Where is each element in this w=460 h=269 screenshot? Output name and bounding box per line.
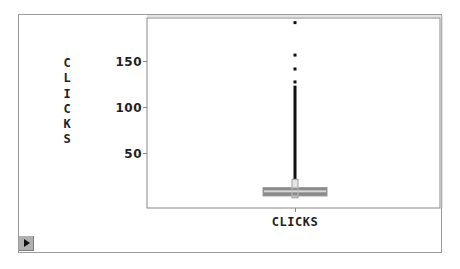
box-plot: 50100150CLICKS	[0, 0, 460, 269]
outlier-point	[294, 54, 297, 57]
play-icon[interactable]	[19, 236, 34, 251]
median-line	[264, 190, 326, 192]
outlier-point	[294, 67, 297, 70]
outlier-point	[294, 21, 297, 24]
y-tick-label: 150	[115, 55, 142, 69]
outlier-point	[294, 80, 297, 83]
y-tick-label: 50	[124, 147, 142, 161]
y-tick-label: 100	[115, 101, 142, 115]
x-axis-title: CLICKS	[272, 215, 318, 229]
